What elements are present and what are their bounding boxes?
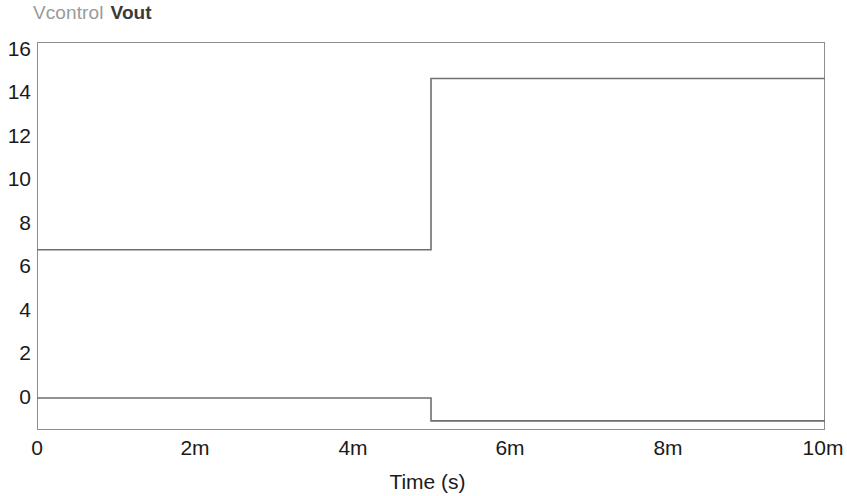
y-tick-8: 8 bbox=[0, 212, 31, 233]
y-tick-16: 16 bbox=[0, 38, 31, 59]
x-tick-8m: 8m bbox=[653, 437, 682, 458]
x-tick-10m: 10m bbox=[803, 437, 844, 458]
y-tick-0: 0 bbox=[0, 386, 31, 407]
x-tick-4m: 4m bbox=[338, 437, 367, 458]
x-tick-2m: 2m bbox=[180, 437, 209, 458]
x-axis-title-text: Time (s) bbox=[389, 470, 465, 493]
chart-figure: Vcontrol Vout 16 14 12 10 8 6 4 2 0 0 2m… bbox=[0, 0, 847, 496]
legend-item-vout: Vout bbox=[111, 1, 152, 24]
y-tick-14: 14 bbox=[0, 81, 31, 102]
chart-legend: Vcontrol Vout bbox=[33, 1, 152, 24]
y-tick-2: 2 bbox=[0, 342, 31, 363]
y-tick-6: 6 bbox=[0, 255, 31, 276]
series-line-vout bbox=[37, 79, 825, 250]
chart-traces bbox=[37, 42, 825, 430]
legend-item-vcontrol: Vcontrol bbox=[33, 1, 104, 24]
x-axis-title: Time (s) bbox=[0, 470, 847, 493]
y-tick-4: 4 bbox=[0, 299, 31, 320]
y-tick-12: 12 bbox=[0, 125, 31, 146]
x-tick-0: 0 bbox=[31, 437, 43, 458]
series-line-vcontrol bbox=[37, 398, 825, 421]
y-axis-ticks: 16 14 12 10 8 6 4 2 0 bbox=[0, 0, 31, 496]
y-tick-10: 10 bbox=[0, 168, 31, 189]
x-tick-6m: 6m bbox=[495, 437, 524, 458]
